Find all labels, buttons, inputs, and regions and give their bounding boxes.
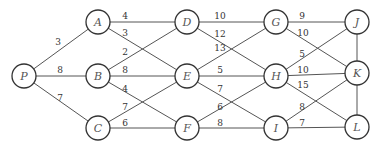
- node-label: H: [270, 70, 281, 83]
- edge-weight-I-K: 8: [299, 102, 305, 112]
- weighted-graph-diagram: 387432847610121357689105101587 PABCDEFGH…: [0, 0, 390, 153]
- edge-weight-A-D: 4: [122, 11, 128, 21]
- node-label: G: [272, 16, 281, 29]
- edge-weight-E-G: 13: [214, 43, 226, 53]
- edge-weight-B-D: 2: [122, 47, 128, 57]
- node-C: C: [86, 116, 110, 140]
- node-K: K: [345, 61, 369, 85]
- node-label: J: [353, 16, 360, 29]
- node-G: G: [264, 10, 288, 34]
- edge-weight-A-E: 3: [122, 28, 128, 38]
- node-label: I: [273, 122, 279, 135]
- edge-weight-E-H: 5: [217, 65, 223, 75]
- node-A: A: [86, 10, 110, 34]
- node-label: F: [182, 122, 191, 135]
- node-J: J: [345, 10, 369, 34]
- edge-weight-C-E: 7: [122, 102, 128, 112]
- edge-weight-G-J: 9: [299, 11, 305, 21]
- edge-weight-C-F: 6: [122, 118, 128, 128]
- node-label: K: [352, 67, 362, 80]
- edge-weight-H-J: 5: [299, 49, 305, 59]
- node-label: E: [182, 70, 191, 83]
- node-label: L: [352, 121, 360, 134]
- edge-weight-B-E: 8: [122, 65, 128, 75]
- node-label: D: [182, 16, 192, 29]
- edge-weight-P-C: 7: [57, 93, 63, 103]
- edge-weight-H-K: 10: [297, 65, 309, 75]
- node-label: B: [93, 70, 102, 83]
- node-B: B: [86, 64, 110, 88]
- edge-weight-E-I: 7: [217, 84, 223, 94]
- node-P: P: [12, 64, 36, 88]
- edge-weight-D-G: 10: [214, 11, 226, 21]
- node-L: L: [345, 115, 369, 139]
- edge-weight-G-K: 10: [297, 28, 309, 38]
- node-F: F: [175, 116, 199, 140]
- edge-weight-D-H: 12: [214, 29, 225, 39]
- edge-weight-B-F: 4: [122, 84, 128, 94]
- node-label: A: [93, 16, 102, 29]
- edge-weight-F-H: 6: [217, 102, 223, 112]
- node-E: E: [175, 64, 199, 88]
- node-label: C: [94, 122, 103, 135]
- node-label: P: [19, 70, 28, 83]
- edge-weight-H-L: 15: [297, 80, 309, 90]
- edge-weight-F-I: 8: [217, 118, 223, 128]
- edge-weight-P-A: 3: [55, 37, 61, 47]
- node-H: H: [264, 64, 288, 88]
- node-I: I: [264, 116, 288, 140]
- edge-weight-P-B: 8: [57, 65, 63, 75]
- node-D: D: [175, 10, 199, 34]
- edge-weight-I-L: 7: [299, 118, 305, 128]
